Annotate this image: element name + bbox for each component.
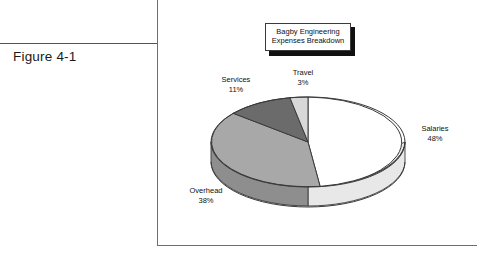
pie-label-overhead-value: 38% <box>177 196 235 206</box>
pie-label-travel-name: Travel <box>283 68 323 78</box>
pie-label-services-name: Services <box>212 75 260 85</box>
pie-label-travel: Travel 3% <box>283 68 323 88</box>
figure-rule-divider <box>0 43 158 44</box>
pie-label-services: Services 11% <box>212 75 260 95</box>
pie-chart <box>205 90 415 215</box>
pie-label-salaries-name: Salaries <box>411 124 459 134</box>
chart-title-line-1: Bagby Engineering <box>270 27 346 36</box>
pie-label-overhead: Overhead 38% <box>177 186 235 206</box>
figure-caption-label: Figure 4-1 <box>13 49 77 64</box>
chart-title-line-2: Expenses Breakdown <box>270 36 346 45</box>
figure-caption-block: Figure 4-1 <box>0 0 158 254</box>
pie-label-travel-value: 3% <box>283 78 323 88</box>
pie-label-salaries-value: 48% <box>411 134 459 144</box>
pie-chart-svg <box>205 90 415 215</box>
pie-label-salaries: Salaries 48% <box>411 124 459 144</box>
pie-label-services-value: 11% <box>212 85 260 95</box>
pie-label-overhead-name: Overhead <box>177 186 235 196</box>
chart-title-box: Bagby Engineering Expenses Breakdown <box>265 23 351 51</box>
